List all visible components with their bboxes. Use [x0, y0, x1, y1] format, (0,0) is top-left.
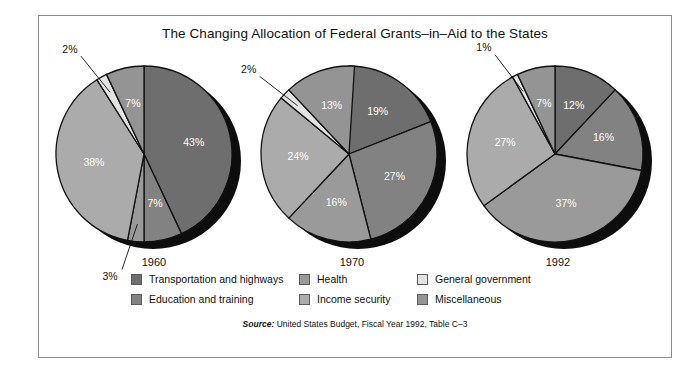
- slice-value-label: 13%: [321, 99, 342, 111]
- page-title: The Changing Allocation of Federal Grant…: [39, 26, 671, 41]
- slice-value-label: 43%: [183, 136, 204, 148]
- pie-svg-1992: 12%16%37%27%1%7%: [458, 54, 658, 254]
- legend-swatch-icon-education-and-training: [131, 294, 142, 305]
- legend-item-miscellaneous: Miscellaneous: [417, 293, 601, 305]
- slice-value-callout: 2%: [62, 43, 77, 55]
- legend: Transportation and highways Health Gener…: [131, 269, 601, 309]
- source-text: United States Budget, Fiscal Year 1992, …: [274, 319, 467, 329]
- slice-value-label: 16%: [326, 196, 347, 208]
- legend-swatch-icon-miscellaneous: [417, 294, 428, 305]
- slice-value-label: 7%: [125, 97, 140, 109]
- legend-label-income-security: Income security: [317, 293, 391, 305]
- year-label-1960: 1960: [47, 256, 247, 268]
- source-prefix: Source:: [243, 319, 275, 329]
- legend-swatch-icon-general-government: [417, 274, 428, 285]
- legend-item-general-government: General government: [417, 273, 601, 285]
- year-label-1992: 1992: [458, 256, 658, 268]
- legend-swatch-icon-income-security: [299, 294, 310, 305]
- source-note: Source: United States Budget, Fiscal Yea…: [39, 319, 671, 329]
- legend-label-education-and-training: Education and training: [149, 293, 254, 305]
- legend-item-health: Health: [299, 273, 417, 285]
- pie-svg-1960: 43%7%3%38%2%7%: [47, 54, 247, 254]
- legend-item-education-and-training: Education and training: [131, 293, 299, 305]
- legend-label-health: Health: [317, 273, 347, 285]
- legend-swatch-icon-transportation-and-highways: [131, 274, 142, 285]
- pie-svg-1970: 19%27%16%24%2%13%: [252, 54, 452, 254]
- pie-chart-1960: 43%7%3%38%2%7% 1960: [47, 54, 247, 272]
- slice-value-label: 7%: [148, 197, 163, 209]
- slice-value-label: 7%: [536, 97, 551, 109]
- pie-chart-1970: 19%27%16%24%2%13% 1970: [252, 54, 452, 272]
- slice-value-label: 16%: [593, 131, 614, 143]
- slice-value-label: 27%: [495, 136, 516, 148]
- slice-value-label: 12%: [563, 99, 584, 111]
- slice-value-callout: 1%: [476, 41, 491, 53]
- slice-value-label: 19%: [367, 105, 388, 117]
- legend-item-transportation-and-highways: Transportation and highways: [131, 273, 299, 285]
- pie-chart-1992: 12%16%37%27%1%7% 1992: [458, 54, 658, 272]
- legend-label-transportation-and-highways: Transportation and highways: [149, 273, 283, 285]
- slice-value-label: 38%: [83, 156, 104, 168]
- slice-value-callout: 3%: [102, 270, 117, 282]
- legend-item-income-security: Income security: [299, 293, 417, 305]
- year-label-1970: 1970: [252, 256, 452, 268]
- slice-value-label: 24%: [288, 150, 309, 162]
- legend-label-miscellaneous: Miscellaneous: [435, 293, 502, 305]
- slice-value-label: 27%: [384, 170, 405, 182]
- slice-value-callout: 2%: [241, 63, 256, 75]
- legend-swatch-icon-health: [299, 274, 310, 285]
- figure-frame: The Changing Allocation of Federal Grant…: [38, 15, 672, 358]
- slice-value-label: 37%: [556, 197, 577, 209]
- legend-label-general-government: General government: [435, 273, 531, 285]
